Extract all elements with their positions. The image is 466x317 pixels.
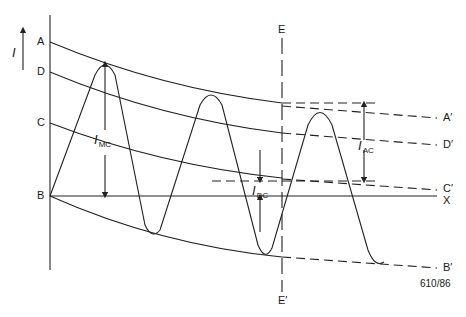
idc-label: IDC (252, 184, 268, 200)
extension-a-prime (282, 106, 437, 118)
label-x: X (443, 195, 450, 206)
extension-b-prime (282, 257, 437, 268)
label-e-prime: E′ (278, 295, 287, 306)
label-b: B (37, 190, 44, 201)
curve-c (50, 123, 282, 178)
diagram-svg (0, 0, 466, 317)
label-b-prime: B′ (443, 262, 452, 273)
curve-a (50, 42, 282, 103)
figure-id: 610/86 (420, 279, 451, 289)
label-d: D (37, 66, 45, 77)
label-d-prime: D′ (443, 139, 453, 150)
label-a-prime: A′ (443, 112, 452, 123)
label-a: A (37, 36, 44, 47)
label-c: C (37, 117, 45, 128)
label-c-prime: C′ (443, 183, 453, 194)
label-e: E (278, 24, 285, 35)
imc-label: IMC (94, 133, 111, 149)
waveform (50, 65, 384, 264)
current-axis-label: I (12, 46, 16, 59)
diagram-canvas: I A D C B A′ D′ C′ X B′ E E′ IMC IDC IAC… (0, 0, 466, 317)
iac-label: IAC (358, 139, 374, 155)
